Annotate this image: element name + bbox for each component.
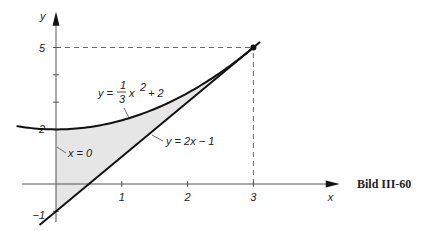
parabola-label-tail: + 2 [148, 87, 164, 99]
x-tick-label-3: 3 [250, 191, 257, 203]
parabola-label-exp: 2 [139, 81, 146, 93]
parabola-label-frac-den: 3 [119, 93, 126, 105]
x-axis-arrow [326, 181, 340, 188]
line-leader-line [152, 135, 163, 141]
parabola-curve [17, 48, 254, 130]
intersection-point [250, 45, 256, 51]
figure-caption: Bild III-60 [357, 177, 411, 191]
parabola-label-frac-num: 1 [120, 79, 126, 91]
x-axis-label: x [327, 191, 334, 203]
chart: 123−125xyy = 13x2+ 2y = 2x − 1x = 0Bild … [0, 0, 430, 231]
y-axis-label: y [39, 10, 47, 22]
parabola-leader-line [124, 108, 129, 118]
line-label: y = 2x − 1 [165, 135, 214, 147]
parabola-label: y = [97, 87, 114, 99]
y-tick-label--1: −1 [32, 209, 45, 221]
y-tick-label-2: 2 [38, 123, 45, 135]
x-zero-label: x = 0 [67, 147, 93, 159]
y-axis-arrow [53, 12, 60, 26]
x-tick-label-2: 2 [184, 191, 191, 203]
parabola-label-x: x [128, 87, 135, 99]
x-tick-label-1: 1 [119, 191, 125, 203]
y-tick-label-5: 5 [39, 42, 46, 54]
